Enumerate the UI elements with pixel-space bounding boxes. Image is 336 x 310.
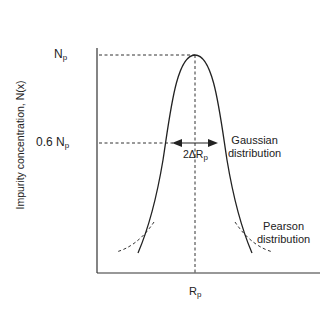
rp-tick-label: Rp <box>189 285 201 299</box>
06np-tick-label: 0.6 Np <box>36 135 69 150</box>
gaussian-line1: Gaussian <box>228 134 281 147</box>
arrowhead-right-icon <box>208 139 218 147</box>
width-sub: p <box>203 153 207 162</box>
06np-sub: p <box>65 141 69 150</box>
pearson-line2: distribution <box>257 233 310 246</box>
width-main: 2ΔR <box>183 148 203 160</box>
06np-main: 0.6 N <box>36 135 65 149</box>
np-tick-label: Np <box>54 47 67 62</box>
gaussian-line2: distribution <box>228 147 281 160</box>
np-sub: p <box>63 53 67 62</box>
diagram-canvas <box>0 0 336 310</box>
pearson-label: Pearson distribution <box>257 220 310 246</box>
pearson-line1: Pearson <box>257 220 310 233</box>
y-axis-label: Impurity concentration, N(x) <box>14 81 26 210</box>
rp-sub: p <box>197 290 201 299</box>
np-main: N <box>54 47 63 61</box>
gaussian-label: Gaussian distribution <box>228 134 281 160</box>
width-label: 2ΔRp <box>183 148 208 162</box>
arrowhead-left-icon <box>172 139 182 147</box>
rp-main: R <box>189 285 197 297</box>
